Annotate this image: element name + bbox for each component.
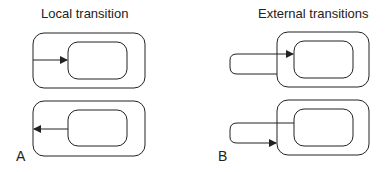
local-transition-out: [33, 101, 145, 156]
transition-diagram: [0, 0, 390, 172]
external-transition-in: [230, 32, 369, 87]
local-transition-in: [33, 33, 145, 88]
external-transition-out: [230, 100, 369, 155]
